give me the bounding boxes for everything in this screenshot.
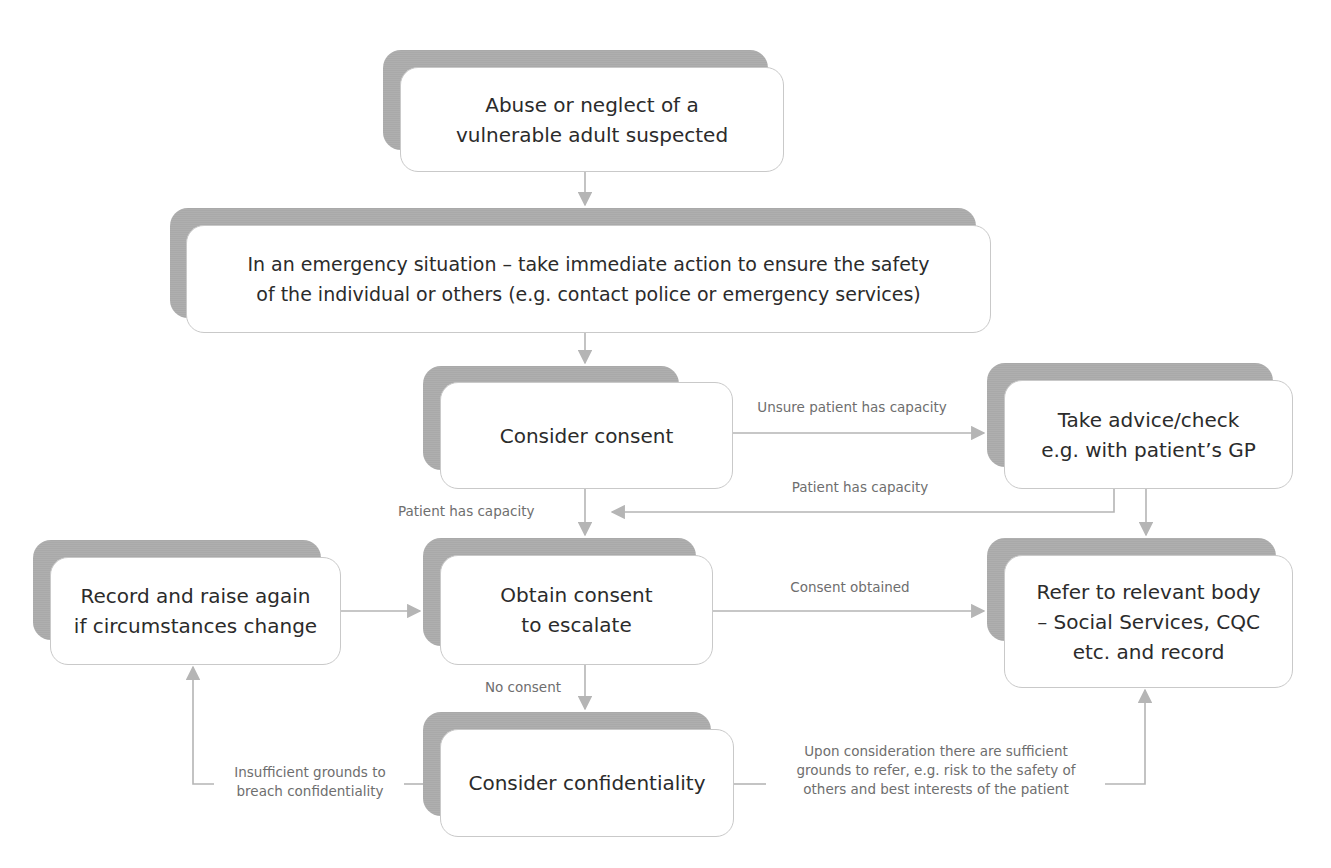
node-record-raise-label: Record and raise again if circumstances … — [50, 557, 341, 665]
edge-label-patient-has-capacity-right: Patient has capacity — [760, 478, 960, 497]
node-obtain-consent-label: Obtain consent to escalate — [440, 555, 713, 665]
node-consider-consent-label: Consider consent — [440, 382, 733, 489]
arrow-sufficient-to-refer — [1105, 690, 1145, 784]
edge-label-sufficient-grounds: Upon consideration there are sufficient … — [766, 742, 1106, 799]
node-emergency-label: In an emergency situation – take immedia… — [186, 225, 991, 333]
edge-label-unsure-capacity: Unsure patient has capacity — [742, 398, 962, 417]
node-refer-label: Refer to relevant body – Social Services… — [1004, 555, 1293, 688]
node-consider-confidentiality-label: Consider confidentiality — [440, 729, 734, 837]
edge-label-insufficient-grounds: Insufficient grounds to breach confident… — [212, 763, 408, 801]
node-abuse-suspected-label: Abuse or neglect of a vulnerable adult s… — [400, 67, 784, 172]
edge-label-patient-has-capacity-left: Patient has capacity — [398, 502, 578, 521]
edge-label-consent-obtained: Consent obtained — [760, 578, 940, 597]
edge-label-no-consent: No consent — [468, 678, 578, 697]
node-take-advice-label: Take advice/check e.g. with patient’s GP — [1004, 380, 1293, 489]
arrow-insufficient-to-record — [193, 667, 214, 784]
